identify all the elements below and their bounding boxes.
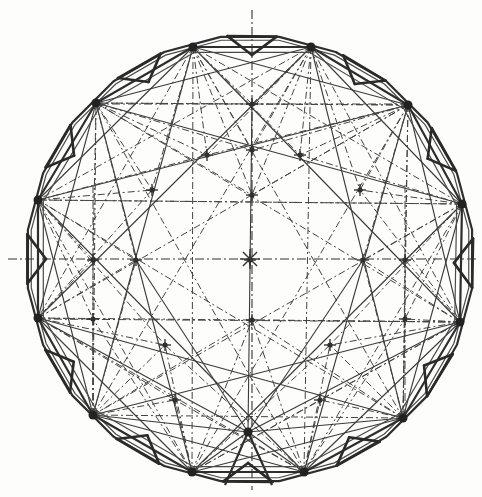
radial-member xyxy=(207,105,408,155)
ring-hub-node xyxy=(34,196,43,205)
radial-member xyxy=(38,105,408,200)
radial-member xyxy=(96,103,136,260)
truss-web xyxy=(70,125,74,156)
ring-hub-node xyxy=(34,314,43,323)
radial-member xyxy=(300,105,408,155)
radial-member xyxy=(192,204,462,472)
apex-member xyxy=(136,260,248,432)
radial-member xyxy=(96,103,252,150)
ring-hub-node xyxy=(300,468,309,477)
center-node-star xyxy=(243,252,250,259)
truss-web xyxy=(454,263,472,288)
radial-member xyxy=(38,103,96,318)
radial-member xyxy=(320,322,460,400)
center-node-star xyxy=(250,252,257,259)
radial-member xyxy=(38,155,207,200)
radial-member xyxy=(252,105,408,150)
radial-member xyxy=(363,260,460,322)
radial-member xyxy=(311,47,403,418)
ring-hub-node xyxy=(89,411,98,420)
ring-hub-node xyxy=(458,200,467,209)
dome-plan-drawing xyxy=(0,0,482,497)
radial-member xyxy=(38,318,192,472)
ring-hub-node xyxy=(456,318,465,327)
radial-member xyxy=(360,105,408,190)
truss-web xyxy=(355,81,386,84)
truss-web xyxy=(472,239,473,288)
radial-member xyxy=(175,400,304,472)
radial-member xyxy=(38,318,175,400)
ring-hub-node xyxy=(404,101,413,110)
radial-member xyxy=(38,200,462,204)
ring-hub-node xyxy=(399,414,408,423)
truss-web xyxy=(424,365,427,396)
radial-member xyxy=(304,105,408,472)
truss-web xyxy=(70,362,74,393)
radial-member xyxy=(193,47,460,322)
dome-plan-svg xyxy=(0,0,482,497)
radial-member xyxy=(38,200,304,472)
radial-member xyxy=(38,47,193,318)
radial-member xyxy=(192,320,252,472)
radial-member xyxy=(193,47,207,155)
ring-hub-node xyxy=(189,43,198,52)
ring-hub-node xyxy=(92,99,101,108)
ring-hub-node xyxy=(188,468,197,477)
apex-member xyxy=(248,260,363,432)
radial-member xyxy=(38,200,136,260)
radial-member xyxy=(38,318,304,472)
radial-member xyxy=(252,47,311,195)
radial-member xyxy=(193,47,252,195)
radial-member xyxy=(360,190,462,204)
radial-member xyxy=(38,47,311,200)
radial-member xyxy=(192,47,193,472)
ring-hub-node xyxy=(307,43,316,52)
radial-member xyxy=(320,400,403,418)
radial-member xyxy=(96,47,311,103)
radial-member xyxy=(252,105,408,195)
bottom-apex-node xyxy=(244,428,253,437)
truss-web xyxy=(117,435,148,439)
